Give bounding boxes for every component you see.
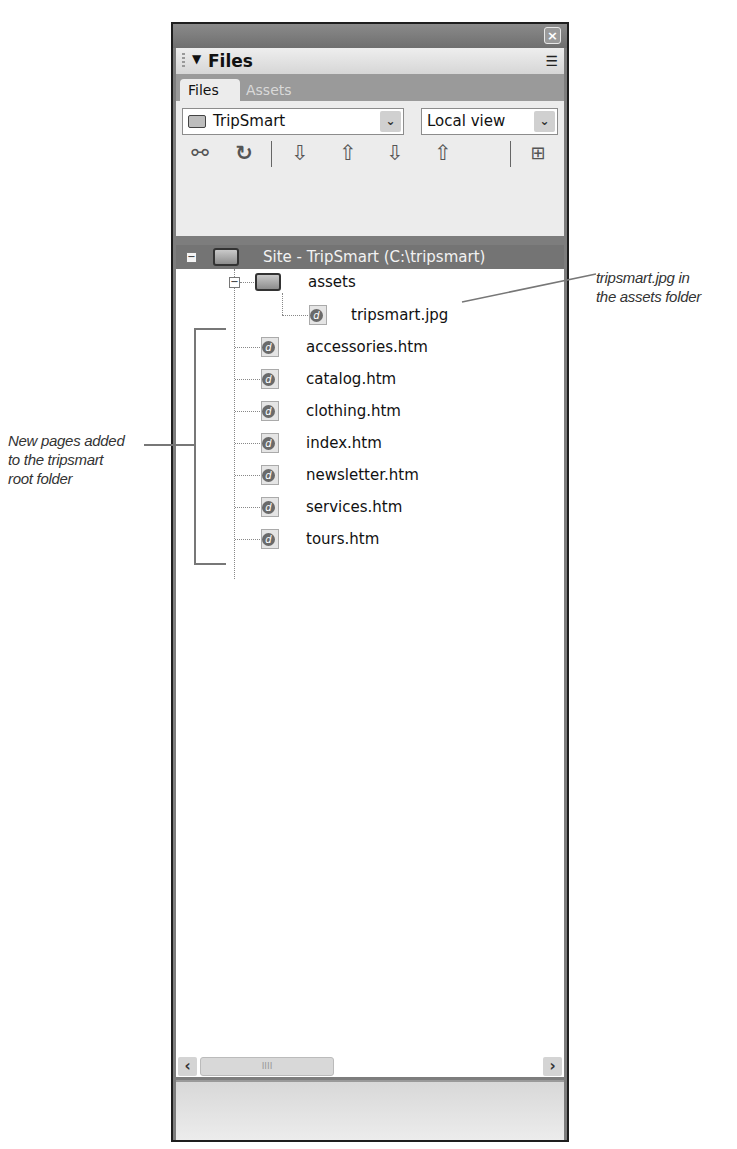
toolbar-divider	[271, 141, 272, 167]
panel-title: Files	[208, 51, 253, 71]
panel-header[interactable]: ▼ Files ☰	[176, 48, 564, 74]
tree-connector	[235, 379, 260, 380]
scroll-right-icon[interactable]: ›	[543, 1057, 562, 1076]
toolbar-divider	[510, 141, 511, 167]
collapse-icon[interactable]: −	[186, 252, 197, 263]
html-file-icon	[261, 337, 279, 357]
tree-connector	[235, 347, 260, 348]
scroll-left-icon[interactable]: ‹	[178, 1057, 197, 1076]
put-files-icon[interactable]: ⇧	[336, 141, 360, 165]
files-toolbar: TripSmart ⌄ Local view ⌄ ⚯ ↻ ⇩ ⇧ ⇩ ⇧ ⊞	[176, 101, 564, 236]
tree-connector	[235, 507, 260, 508]
chevron-down-icon[interactable]: ⌄	[380, 111, 401, 132]
html-file-icon	[261, 497, 279, 517]
annotation-line: root folder	[8, 469, 124, 488]
refresh-icon[interactable]: ↻	[232, 141, 256, 165]
folder-assets[interactable]: assets	[308, 272, 356, 292]
html-file-icon	[261, 529, 279, 549]
site-select-value: TripSmart	[213, 112, 285, 130]
tab-assets[interactable]: Assets	[238, 79, 300, 101]
file-tours-htm[interactable]: tours.htm	[306, 529, 379, 549]
check-in-icon[interactable]: ⇧	[431, 141, 455, 165]
panel-titlebar[interactable]: ×	[173, 24, 567, 48]
bracket-line	[194, 328, 226, 330]
tree-connector	[235, 411, 260, 412]
bracket-line	[194, 328, 196, 564]
tree-connector	[235, 539, 260, 540]
tree-connector	[234, 269, 235, 579]
tab-files[interactable]: Files	[180, 79, 240, 101]
image-file-icon	[309, 305, 327, 325]
tab-bar: Files Assets	[176, 74, 564, 101]
folder-icon	[213, 248, 239, 266]
annotation-line: to the tripsmart	[8, 450, 124, 469]
file-newsletter-htm[interactable]: newsletter.htm	[306, 465, 419, 485]
tree-connector	[282, 293, 283, 315]
file-index-htm[interactable]: index.htm	[306, 433, 382, 453]
tree-connector	[235, 443, 260, 444]
collapse-icon[interactable]: −	[229, 277, 240, 288]
annotation-new-pages: New pages added to the tripsmart root fo…	[8, 431, 124, 488]
view-select[interactable]: Local view ⌄	[421, 108, 558, 135]
file-tree: − Site - TripSmart (C:\tripsmart) − asse…	[176, 245, 564, 1055]
annotation-line: New pages added	[8, 431, 124, 450]
horizontal-scrollbar[interactable]: ‹ IIII ›	[176, 1055, 564, 1077]
collapse-arrow-icon[interactable]: ▼	[192, 52, 201, 66]
connect-icon[interactable]: ⚯	[188, 141, 212, 165]
folder-icon	[188, 115, 206, 128]
status-bar	[176, 1080, 564, 1140]
callout-pointer	[144, 444, 195, 446]
expand-collapse-icon[interactable]: ⊞	[526, 141, 550, 165]
site-root-label: Site - TripSmart (C:\tripsmart)	[263, 245, 485, 269]
view-select-value: Local view	[427, 112, 505, 130]
files-panel: × ▼ Files ☰ Files Assets TripSmart ⌄ Loc…	[171, 22, 569, 1142]
tree-connector	[282, 315, 308, 316]
close-icon[interactable]: ×	[544, 27, 561, 44]
chevron-down-icon[interactable]: ⌄	[534, 111, 555, 132]
bracket-line	[194, 563, 226, 565]
folder-icon	[255, 273, 281, 291]
toolbar-icons: ⚯ ↻ ⇩ ⇧ ⇩ ⇧ ⊞	[176, 139, 564, 169]
check-out-icon[interactable]: ⇩	[383, 141, 407, 165]
html-file-icon	[261, 465, 279, 485]
options-menu-icon[interactable]: ☰	[545, 53, 558, 69]
tree-connector	[240, 282, 254, 283]
tree-connector	[235, 475, 260, 476]
html-file-icon	[261, 369, 279, 389]
annotation-line: the assets folder	[596, 287, 701, 306]
file-catalog-htm[interactable]: catalog.htm	[306, 369, 396, 389]
annotation-tripsmart-jpg: tripsmart.jpg in the assets folder	[596, 268, 701, 306]
annotation-line: tripsmart.jpg in	[596, 268, 701, 287]
file-tripsmart-jpg[interactable]: tripsmart.jpg	[351, 305, 448, 325]
callout-pointer	[460, 270, 600, 310]
site-root-row[interactable]: − Site - TripSmart (C:\tripsmart)	[176, 245, 564, 269]
file-accessories-htm[interactable]: accessories.htm	[306, 337, 428, 357]
html-file-icon	[261, 401, 279, 421]
html-file-icon	[261, 433, 279, 453]
grip-icon[interactable]	[182, 53, 185, 69]
file-clothing-htm[interactable]: clothing.htm	[306, 401, 401, 421]
get-files-icon[interactable]: ⇩	[288, 141, 312, 165]
site-select[interactable]: TripSmart ⌄	[182, 108, 404, 135]
scroll-thumb[interactable]: IIII	[200, 1057, 334, 1076]
file-services-htm[interactable]: services.htm	[306, 497, 402, 517]
